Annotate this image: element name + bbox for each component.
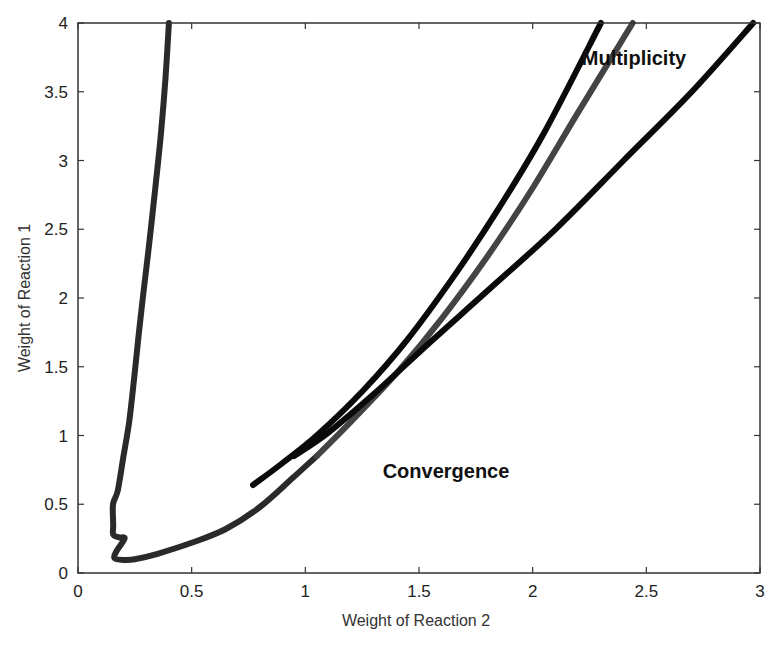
y-tick-label: 2 [59, 289, 68, 308]
x-tick-label: 0 [73, 582, 82, 601]
plot-area [78, 23, 760, 573]
y-axis-label: Weight of Reaction 1 [16, 224, 33, 372]
x-axis-label: Weight of Reaction 2 [342, 612, 490, 629]
y-tick-label: 4 [59, 14, 68, 33]
y-tick-label: 0 [59, 564, 68, 583]
y-tick-label: 3.5 [44, 83, 68, 102]
x-tick-label: 1.5 [407, 582, 431, 601]
x-tick-label: 0.5 [180, 582, 204, 601]
y-tick-label: 1.5 [44, 358, 68, 377]
x-tick-label: 2 [528, 582, 537, 601]
x-tick-label: 1 [301, 582, 310, 601]
x-tick-label: 3 [755, 582, 764, 601]
y-tick-label: 0.5 [44, 495, 68, 514]
annotation-multiplicity: Multiplicity [582, 47, 687, 69]
y-tick-label: 3 [59, 152, 68, 171]
line-chart: 00.511.522.5300.511.522.533.54 Weight of… [0, 0, 778, 646]
x-tick-label: 2.5 [635, 582, 659, 601]
annotation-convergence: Convergence [383, 460, 510, 482]
y-tick-label: 1 [59, 427, 68, 446]
y-tick-label: 2.5 [44, 220, 68, 239]
